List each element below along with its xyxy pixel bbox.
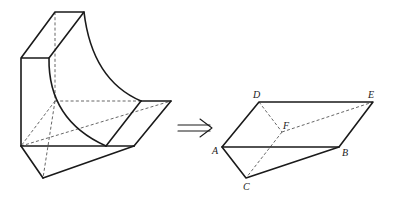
- edge: [134, 101, 171, 146]
- geometry-figure: D E F A B C: [0, 0, 393, 197]
- label-C: C: [243, 181, 250, 192]
- hidden-edge-FE: [282, 102, 373, 132]
- hidden-edge-FC: [246, 132, 282, 178]
- left-solid: [21, 12, 171, 178]
- label-D: D: [252, 89, 261, 100]
- hidden-edge: [43, 101, 55, 178]
- edge: [21, 146, 43, 178]
- label-A: A: [211, 145, 219, 156]
- hidden-edge-DF: [259, 102, 282, 132]
- edge: [106, 101, 141, 146]
- hidden-edge: [21, 101, 55, 146]
- edge: [43, 146, 134, 178]
- label-E: E: [367, 89, 374, 100]
- face-ABED: [222, 102, 373, 147]
- label-F: F: [282, 120, 290, 131]
- implies-arrow-icon: [178, 119, 212, 137]
- prism-abc-def: D E F A B C: [211, 89, 374, 192]
- curved-edge-top: [84, 12, 141, 101]
- hidden-edge: [21, 101, 171, 146]
- label-B: B: [342, 147, 348, 158]
- face-ACB: [222, 147, 339, 178]
- curved-edge-bottom: [49, 58, 106, 146]
